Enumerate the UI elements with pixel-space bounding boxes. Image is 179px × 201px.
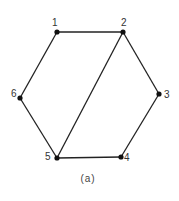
edges-group [20, 32, 159, 158]
node-1 [54, 29, 59, 34]
figure-caption: (a) [80, 173, 95, 184]
node-5 [54, 155, 59, 160]
edge-4-5 [57, 157, 121, 158]
edge-6-1 [20, 32, 57, 98]
edge-2-3 [123, 32, 159, 94]
node-label-6: 6 [11, 88, 17, 99]
graph-diagram: 123456 (a) [0, 0, 179, 201]
node-4 [118, 154, 123, 159]
node-label-1: 1 [52, 17, 58, 28]
node-3 [156, 91, 161, 96]
edge-5-6 [20, 98, 57, 158]
labels-group: 123456 [11, 17, 170, 163]
node-label-2: 2 [121, 17, 127, 28]
node-label-3: 3 [164, 89, 170, 100]
node-label-4: 4 [124, 152, 130, 163]
edge-3-4 [121, 94, 159, 157]
edge-2-5 [57, 32, 123, 158]
node-6 [17, 95, 22, 100]
node-label-5: 5 [45, 151, 51, 162]
node-2 [120, 29, 125, 34]
